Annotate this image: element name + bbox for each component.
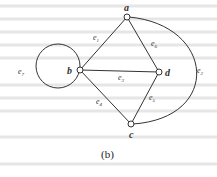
edge-label-e4: e4: [96, 97, 103, 107]
node-label-a: a: [124, 2, 129, 13]
edge-label-e6: e6: [151, 39, 158, 49]
edge-e1: [80, 17, 127, 70]
edge-label-e7: e7: [18, 67, 25, 77]
node-a: [124, 14, 130, 20]
edge-label-e1: e1: [93, 33, 99, 43]
node-label-c: c: [129, 129, 134, 140]
graph-diagram: a b c d e1 e2 e3 e4 e5 e6 e7 (b): [0, 0, 217, 177]
edge-label-e2: e2: [197, 66, 204, 76]
edge-label-e5: e5: [149, 93, 156, 103]
node-c: [128, 121, 134, 127]
edge-label-e3: e3: [118, 73, 125, 83]
node-label-b: b: [67, 65, 72, 76]
edge-e7-loop: [36, 44, 80, 88]
figure-caption: (b): [101, 148, 114, 161]
node-b: [77, 67, 83, 73]
node-label-d: d: [165, 67, 171, 78]
node-d: [156, 69, 162, 75]
edge-e3: [80, 70, 159, 72]
